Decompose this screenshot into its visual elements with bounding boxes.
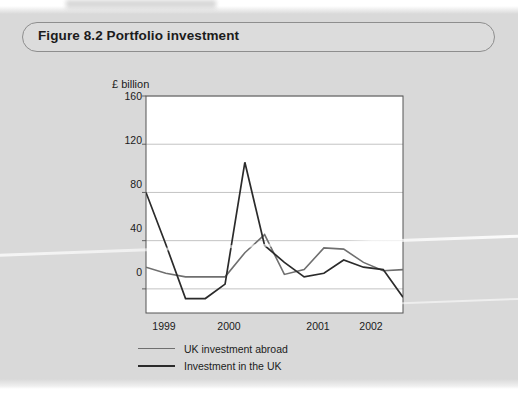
legend-line-icon-series-1	[138, 365, 175, 367]
legend-line-icon-series-0	[138, 348, 175, 349]
legend-label-series-0: UK investment abroad	[184, 343, 288, 355]
chart-canvas	[22, 58, 495, 388]
page-bottom-fade	[0, 379, 518, 389]
legend-item-uk-investment-abroad: UK investment abroad	[138, 340, 288, 357]
figure-title: Figure 8.2 Portfolio investment	[38, 28, 239, 43]
scanned-page-panel: Figure 8.2 Portfolio investment £ billio…	[0, 6, 518, 389]
plot-background	[146, 96, 403, 313]
figure-page: Figure 8.2 Portfolio investment £ billio…	[0, 0, 518, 409]
line-chart: £ billion 160 120 80 40 0 1999 2000 2001…	[22, 58, 495, 388]
chart-legend: UK investment abroad Investment in the U…	[138, 340, 288, 374]
legend-item-investment-in-the-uk: Investment in the UK	[138, 357, 288, 374]
legend-label-series-1: Investment in the UK	[184, 360, 281, 372]
y-tick-marks	[142, 96, 146, 289]
figure-body: £ billion 160 120 80 40 0 1999 2000 2001…	[22, 58, 495, 388]
scan-smudge	[66, 0, 216, 8]
